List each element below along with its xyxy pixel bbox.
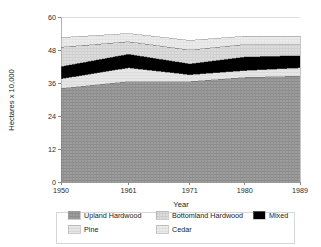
legend-swatch-mixed [253, 211, 265, 219]
x-tick-label: 1950 [53, 186, 69, 195]
legend-swatch-pine [68, 225, 80, 233]
y-tick-label: 12 [48, 145, 56, 154]
x-tick-label: 1989 [292, 186, 308, 195]
x-axis-title: Year [173, 200, 189, 209]
stacked-area-bands [61, 34, 300, 183]
legend-label-cedar: Cedar [172, 225, 192, 234]
legend-label-upland-hardwood: Upland Hardwood [84, 211, 142, 220]
y-tick-label: 48 [48, 46, 56, 55]
legend-swatch-upland-hardwood [68, 211, 80, 219]
y-tick-label: 36 [48, 79, 56, 88]
y-axis-title: Hectares x 10,000 [7, 69, 16, 131]
area-chart: 01224364860 19501961197119801989 Hectare… [0, 0, 321, 247]
area-band-upland-hardwood [61, 76, 300, 182]
legend-swatch-cedar [156, 225, 168, 233]
chart-canvas: 01224364860 19501961197119801989 Hectare… [0, 0, 321, 247]
y-tick-label: 24 [48, 112, 56, 121]
legend-label-bottomland-hardwood: Bottomland Hardwood [172, 211, 243, 220]
legend-label-mixed: Mixed [269, 211, 288, 220]
y-tick-label: 60 [48, 13, 56, 22]
legend-label-pine: Pine [84, 225, 98, 234]
x-tick-label: 1961 [120, 186, 136, 195]
legend-swatch-bottomland-hardwood [156, 211, 168, 219]
x-tick-label: 1971 [182, 186, 198, 195]
x-tick-label: 1980 [237, 186, 253, 195]
